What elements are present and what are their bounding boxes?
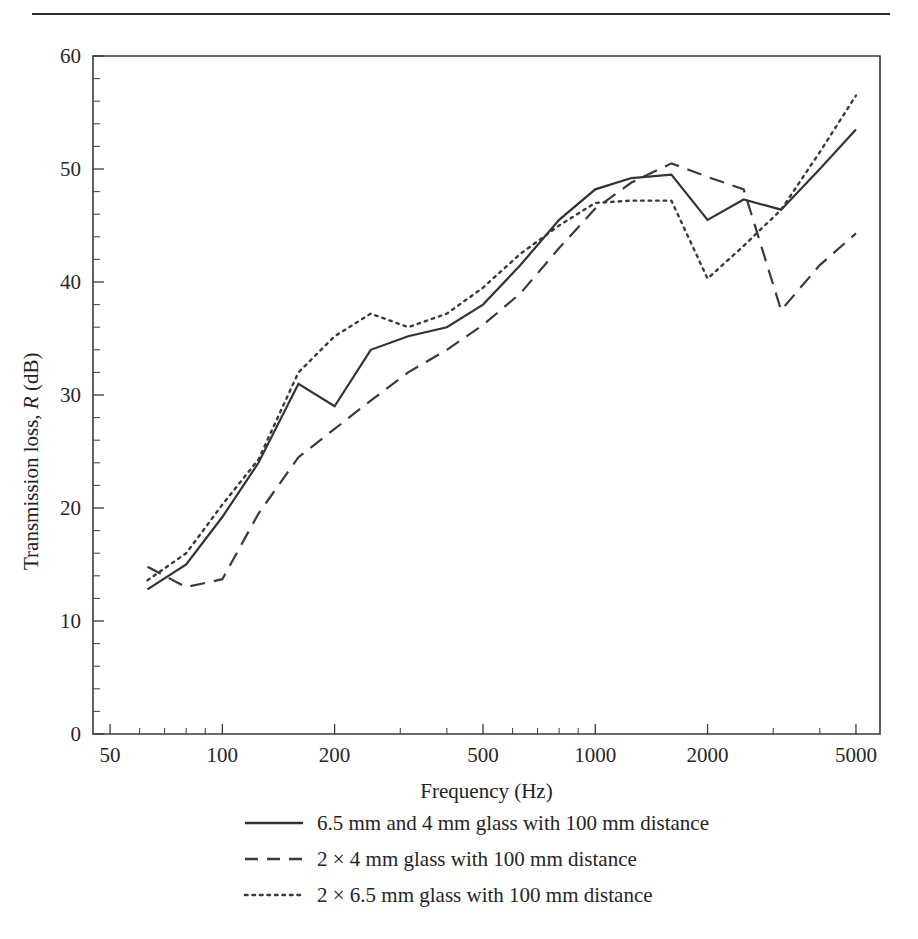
legend-key-dotted-line — [243, 886, 305, 904]
x-tick-label: 1000 — [574, 743, 616, 767]
legend-item-dotted: 2 × 6.5 mm glass with 100 mm distance — [0, 877, 918, 913]
y-tick-label: 40 — [60, 270, 81, 294]
y-axis-title: Transmission loss, R (dB) — [19, 353, 44, 570]
x-tick-label: 200 — [319, 743, 351, 767]
x-axis-title: Frequency (Hz) — [420, 779, 552, 803]
y-tick-label: 30 — [60, 383, 81, 407]
series-layer — [148, 96, 856, 590]
legend-key-dashed-line — [243, 850, 305, 868]
legend-item-dashed: 2 × 4 mm glass with 100 mm distance — [0, 841, 918, 877]
series-line-dotted — [148, 96, 856, 581]
axes-layer — [93, 56, 880, 734]
y-tick-label: 50 — [60, 157, 81, 181]
x-tick-label: 500 — [467, 743, 499, 767]
y-tick-label: 0 — [71, 722, 82, 746]
x-tick-label: 100 — [207, 743, 239, 767]
legend-item-solid: 6.5 mm and 4 mm glass with 100 mm distan… — [0, 805, 918, 841]
y-axis-title-holder: Transmission loss, R (dB) — [14, 270, 54, 570]
y-tick-label: 20 — [60, 496, 81, 520]
legend-key-solid-line — [243, 814, 305, 832]
transmission-loss-chart: 010203040506050100200500100020005000Freq… — [0, 20, 918, 810]
x-tick-label: 50 — [100, 743, 121, 767]
y-axis-title-post: (dB) — [19, 353, 43, 397]
chart-figure: 010203040506050100200500100020005000Freq… — [0, 20, 918, 810]
figure-page: 010203040506050100200500100020005000Freq… — [0, 0, 918, 939]
y-axis-title-pre: Transmission loss, — [19, 409, 43, 570]
y-axis-title-symbol: R — [19, 396, 43, 409]
x-tick-label: 5000 — [835, 743, 877, 767]
header-rule — [32, 13, 890, 15]
plot-frame — [93, 56, 880, 734]
legend-label-0: 6.5 mm and 4 mm glass with 100 mm distan… — [317, 811, 709, 836]
series-line-dashed — [148, 163, 856, 587]
y-tick-label: 60 — [60, 44, 81, 68]
legend-label-2: 2 × 6.5 mm glass with 100 mm distance — [317, 883, 653, 908]
chart-legend: 6.5 mm and 4 mm glass with 100 mm distan… — [0, 805, 918, 913]
y-tick-label: 10 — [60, 609, 81, 633]
x-tick-label: 2000 — [687, 743, 729, 767]
labels-layer: 010203040506050100200500100020005000Freq… — [60, 44, 877, 803]
legend-label-1: 2 × 4 mm glass with 100 mm distance — [317, 847, 637, 872]
